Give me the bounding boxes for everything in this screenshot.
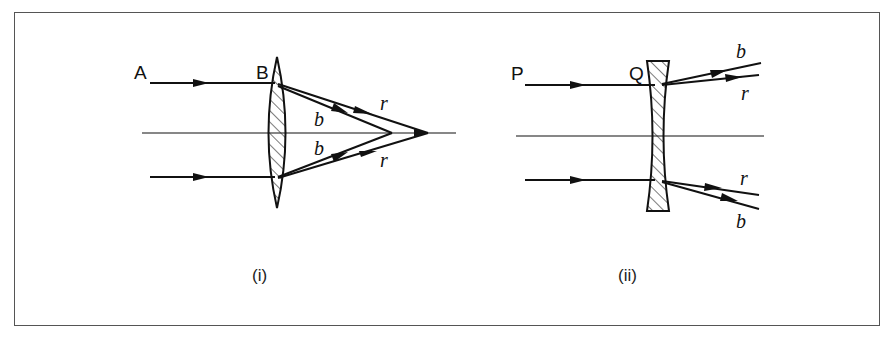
label-b-upper: b (314, 108, 324, 130)
label-r-lower-ii: r (740, 167, 748, 189)
label-Q: Q (629, 63, 644, 84)
arrow-icon (193, 173, 209, 181)
label-b-upper-ii: b (736, 40, 746, 62)
label-r-upper-ii: r (741, 82, 749, 104)
label-B: B (256, 62, 269, 83)
convex-lens-icon (269, 57, 286, 208)
caption-i: (i) (252, 266, 267, 285)
label-r-lower: r (380, 149, 388, 171)
label-A: A (134, 62, 147, 83)
arrow-icon (353, 106, 372, 114)
arrow-icon (193, 79, 209, 87)
label-b-lower-ii: b (736, 210, 746, 232)
panel-i-convex-lens: A B b b r r (i) (134, 57, 456, 285)
lens-dispersion-diagram: A B b b r r (i) P Q b r r b (ii) (0, 0, 894, 339)
label-r-upper: r (380, 92, 388, 114)
label-b-lower: b (314, 137, 324, 159)
arrow-icon (570, 81, 586, 89)
red-ray-upper-i (278, 84, 428, 133)
arrow-icon (710, 70, 727, 78)
panel-ii-concave-lens: P Q b r r b (ii) (511, 40, 764, 285)
label-P: P (511, 63, 524, 84)
caption-ii: (ii) (618, 266, 637, 285)
arrow-icon (720, 193, 738, 201)
red-ray-lower-i (278, 133, 428, 178)
arrow-icon (359, 151, 377, 157)
arrow-icon (570, 176, 586, 184)
